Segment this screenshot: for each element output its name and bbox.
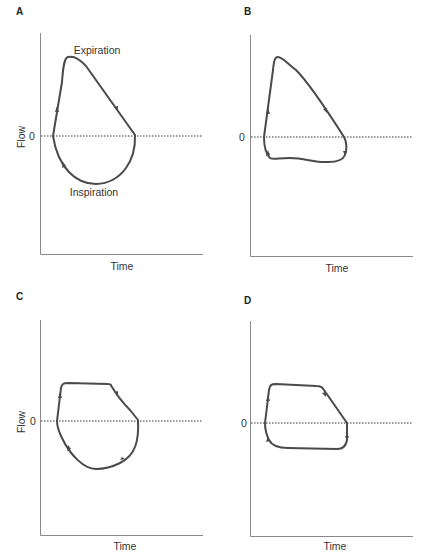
x-axis-label: Time [114,540,137,552]
arrow-down-icon [345,436,349,441]
panel-letter: B [244,6,251,17]
y-axis-label: Flow [15,125,27,148]
axes [251,35,414,257]
flow-loop-curve [53,57,135,184]
panel-letter: D [244,295,251,306]
expiration-annotation: Expiration [74,44,121,56]
x-axis-label: Time [324,540,347,552]
y-axis-label: Flow [15,410,27,433]
flow-loop-curve [265,384,347,449]
zero-tick-label: 0 [241,417,247,429]
axes [251,321,414,537]
inspiration-annotation: Inspiration [70,186,119,198]
arrow-down-icon [322,392,326,397]
arrow-up-icon [266,395,270,401]
x-axis-label: Time [326,262,349,274]
zero-tick-label: 0 [239,131,245,143]
axes [41,320,204,536]
zero-tick-label: 0 [29,130,35,142]
axes [41,33,204,255]
panel-letter: A [16,6,23,17]
flow-loop-curve [57,383,138,469]
x-axis-label: Time [111,260,134,272]
figure-canvas: A 0 Flow Time Expiration Inspiration B 0… [0,0,428,560]
panel-a: A 0 Flow Time Expiration Inspiration [15,6,203,272]
panel-b: B 0 Time [239,6,413,274]
arrow-down-icon [323,108,327,113]
panel-c: C 0 Flow Time [15,291,203,552]
zero-tick-label: 0 [30,415,36,427]
flow-loop-curve [264,57,346,162]
panel-d: D 0 Time [241,295,413,552]
panel-letter: C [16,291,23,302]
